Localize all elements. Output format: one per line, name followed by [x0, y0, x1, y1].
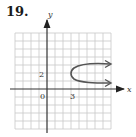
x-tick-label-3: 3: [70, 92, 75, 101]
x-axis-label: x: [127, 85, 132, 94]
graph: x y 0 3 2: [0, 0, 136, 137]
y-axis-label: y: [47, 10, 53, 19]
y-tick-label-2: 2: [39, 70, 44, 79]
grid: [15, 33, 111, 129]
origin-label: 0: [40, 92, 45, 101]
